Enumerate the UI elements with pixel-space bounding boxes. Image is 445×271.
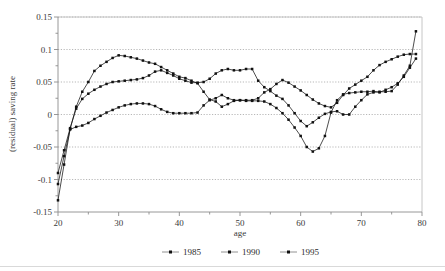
series-marker	[348, 92, 351, 95]
series-marker	[324, 105, 327, 108]
legend-marker-icon	[287, 251, 290, 254]
series-marker	[372, 90, 375, 93]
series-marker	[93, 70, 96, 73]
series-marker	[178, 78, 181, 81]
series-marker	[63, 155, 66, 158]
series-marker	[208, 78, 211, 81]
series-marker	[305, 94, 308, 97]
series-marker	[57, 199, 60, 202]
series-marker	[275, 107, 278, 110]
series-marker	[403, 53, 406, 56]
series-marker	[251, 68, 254, 71]
series-marker	[166, 72, 169, 75]
series-marker	[396, 82, 399, 85]
series-marker	[257, 100, 260, 103]
series-marker	[299, 135, 302, 138]
legend-marker-icon	[228, 251, 231, 254]
legend-label: 1990	[242, 247, 261, 257]
series-marker	[390, 58, 393, 61]
series-marker	[117, 54, 120, 57]
series-marker	[75, 107, 78, 110]
series-marker	[378, 91, 381, 94]
series-marker	[117, 80, 120, 83]
series-marker	[275, 94, 278, 97]
series-marker	[360, 79, 363, 82]
series-marker	[318, 102, 321, 105]
x-tick-label: 60	[296, 218, 306, 228]
series-marker	[160, 66, 163, 69]
series-marker	[81, 98, 84, 101]
series-marker	[130, 103, 133, 106]
series-marker	[342, 93, 345, 96]
series-marker	[221, 94, 224, 97]
series-marker	[239, 69, 242, 72]
series-marker	[87, 81, 90, 84]
series-marker	[136, 78, 139, 81]
series-marker	[348, 113, 351, 116]
series-marker	[293, 85, 296, 88]
series-marker	[293, 112, 296, 115]
series-marker	[305, 125, 308, 128]
series-marker	[348, 87, 351, 90]
series-marker	[227, 68, 230, 71]
series-marker	[269, 103, 272, 106]
series-marker	[136, 57, 139, 60]
chart-background	[0, 0, 445, 271]
series-marker	[93, 118, 96, 121]
y-tick-label: 0.05	[36, 77, 52, 87]
series-marker	[409, 53, 412, 56]
x-tick-label: 40	[175, 218, 185, 228]
series-marker	[142, 77, 145, 80]
series-marker	[257, 79, 260, 82]
series-marker	[354, 91, 357, 94]
series-marker	[263, 86, 266, 89]
y-tick-label: -0.15	[33, 207, 52, 217]
series-marker	[281, 79, 284, 82]
series-marker	[390, 90, 393, 93]
series-marker	[299, 120, 302, 123]
series-marker	[299, 89, 302, 92]
series-marker	[287, 81, 290, 84]
series-marker	[130, 56, 133, 59]
series-marker	[148, 103, 151, 106]
series-marker	[184, 112, 187, 115]
series-marker	[366, 76, 369, 79]
series-marker	[136, 102, 139, 105]
series-marker	[251, 100, 254, 103]
series-marker	[123, 104, 126, 107]
series-marker	[202, 104, 205, 107]
series-marker	[324, 113, 327, 116]
series-marker	[154, 63, 157, 66]
series-marker	[123, 55, 126, 58]
x-tick-label: 80	[418, 218, 428, 228]
series-marker	[336, 99, 339, 102]
series-marker	[148, 61, 151, 64]
legend-marker-icon	[169, 251, 172, 254]
series-marker	[245, 68, 248, 71]
series-marker	[318, 147, 321, 150]
series-marker	[81, 124, 84, 127]
series-marker	[318, 117, 321, 120]
series-marker	[117, 106, 120, 109]
x-tick-label: 30	[114, 218, 124, 228]
series-marker	[293, 126, 296, 129]
series-marker	[99, 85, 102, 88]
series-marker	[87, 92, 90, 95]
y-tick-label: -0.1	[38, 175, 52, 185]
series-marker	[178, 112, 181, 115]
chart-figure: -0.15-0.1-0.0500.050.10.15 2030405060708…	[0, 0, 445, 271]
y-tick-label: -0.05	[33, 142, 52, 152]
series-marker	[190, 112, 193, 115]
series-marker	[214, 72, 217, 75]
series-marker	[360, 91, 363, 94]
series-marker	[105, 83, 108, 86]
series-marker	[403, 76, 406, 79]
x-tick-label: 50	[236, 218, 246, 228]
series-marker	[227, 97, 230, 100]
series-marker	[111, 109, 114, 112]
series-marker	[366, 91, 369, 94]
series-marker	[287, 104, 290, 107]
series-marker	[263, 91, 266, 94]
series-marker	[233, 69, 236, 72]
series-marker	[354, 83, 357, 86]
